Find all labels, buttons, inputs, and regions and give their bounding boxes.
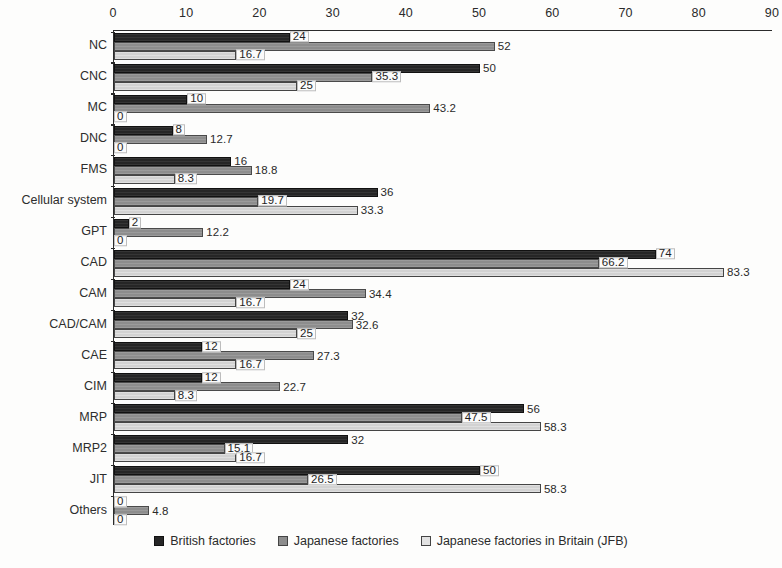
bar-row: 0 [114, 515, 773, 524]
bar-row: 12.7 [114, 135, 773, 144]
bar-value-label: 0 [114, 143, 127, 154]
bar-value-label: 25 [297, 81, 316, 92]
bar[interactable] [114, 391, 175, 400]
category-label: NC [0, 38, 107, 52]
bar-group: 1227.316.7 [114, 340, 772, 371]
bar-group: 3215.116.7 [114, 433, 772, 464]
chart-legend: British factoriesJapanese factoriesJapan… [0, 534, 782, 548]
bar[interactable] [114, 484, 541, 493]
x-axis-tick-label: 20 [252, 6, 266, 20]
bar-value-label: 83.3 [724, 266, 750, 278]
category-label: CAM [0, 286, 107, 300]
bar[interactable] [114, 351, 314, 360]
bar-row: 24 [114, 280, 773, 289]
bar[interactable] [114, 475, 308, 484]
bar-row: 83.3 [114, 268, 773, 277]
category-label: MRP2 [0, 441, 107, 455]
category-label: Others [0, 503, 107, 517]
legend-item[interactable]: Japanese factories in Britain (JFB) [421, 534, 628, 548]
bar-value-label: 16.7 [236, 297, 265, 308]
bar-group: 1043.20 [114, 93, 772, 124]
bar-value-label: 47.5 [462, 412, 491, 423]
bar-row: 0 [114, 113, 773, 122]
category-label: CAD [0, 255, 107, 269]
x-axis-tick-label: 0 [109, 6, 116, 20]
bar[interactable] [114, 197, 258, 206]
bar-value-label: 8.3 [175, 173, 197, 184]
bar-value-label: 35.3 [372, 72, 401, 83]
legend-item[interactable]: Japanese factories [278, 534, 399, 548]
bar[interactable] [114, 219, 129, 228]
bar-row: 24 [114, 33, 773, 42]
bar[interactable] [114, 73, 372, 82]
bar-row: 8.3 [114, 175, 773, 184]
bar[interactable] [114, 175, 175, 184]
bar[interactable] [114, 360, 236, 369]
bar-row: 50 [114, 64, 773, 73]
bar[interactable] [114, 453, 236, 462]
category-label: Cellular system [0, 193, 107, 207]
bar[interactable] [114, 64, 480, 73]
bar[interactable] [114, 135, 207, 144]
bar[interactable] [114, 259, 599, 268]
legend-label: Japanese factories in Britain (JFB) [437, 534, 628, 548]
x-axis-tick-label: 50 [472, 6, 486, 20]
bar-value-label: 33.3 [358, 204, 384, 216]
legend-swatch-icon [421, 536, 431, 546]
bar-row: 0 [114, 144, 773, 153]
bar[interactable] [114, 82, 297, 91]
legend-item[interactable]: British factories [154, 534, 255, 548]
bar-group: 1618.88.3 [114, 155, 772, 186]
bar[interactable] [114, 311, 348, 320]
x-axis-tick-label: 70 [618, 6, 632, 20]
legend-label: British factories [170, 534, 255, 548]
bar[interactable] [114, 444, 225, 453]
bar[interactable] [114, 329, 297, 338]
bar[interactable] [114, 250, 656, 259]
bar-row: 50 [114, 466, 773, 475]
plot-area: 245216.75035.3251043.20812.701618.88.336… [113, 30, 772, 525]
bar[interactable] [114, 95, 187, 104]
bar[interactable] [114, 422, 541, 431]
bar-group: 04.80 [114, 495, 772, 526]
bar[interactable] [114, 466, 480, 475]
bar-row: 56 [114, 404, 773, 413]
bar-row: 58.3 [114, 484, 773, 493]
bar[interactable] [114, 268, 724, 277]
bar-value-label: 8 [173, 125, 186, 136]
bar[interactable] [114, 320, 353, 329]
bar[interactable] [114, 413, 462, 422]
bar[interactable] [114, 373, 202, 382]
category-label: CIM [0, 379, 107, 393]
bar-row: 26.5 [114, 475, 773, 484]
category-label: CNC [0, 69, 107, 83]
bar[interactable] [114, 42, 495, 51]
bar[interactable] [114, 342, 202, 351]
bar[interactable] [114, 298, 236, 307]
bar[interactable] [114, 382, 280, 391]
bar[interactable] [114, 104, 430, 113]
bar-row: 74 [114, 250, 773, 259]
bar-value-label: 25 [297, 328, 316, 339]
x-axis-tick-label: 10 [179, 6, 193, 20]
bar-value-label: 0 [114, 112, 127, 123]
bar-group: 3619.733.3 [114, 186, 772, 217]
bar[interactable] [114, 188, 378, 197]
bar-value-label: 16.7 [236, 452, 265, 463]
bar[interactable] [114, 51, 236, 60]
bar-row: 12 [114, 373, 773, 382]
bar-row: 16.7 [114, 51, 773, 60]
bar[interactable] [114, 280, 290, 289]
bar-value-label: 66.2 [599, 257, 628, 268]
bar-value-label: 24 [290, 32, 309, 43]
bar-value-label: 8.3 [175, 390, 197, 401]
bar[interactable] [114, 206, 358, 215]
bar[interactable] [114, 33, 290, 42]
legend-swatch-icon [278, 536, 288, 546]
bar[interactable] [114, 126, 173, 135]
bar[interactable] [114, 228, 203, 237]
bar-value-label: 26.5 [308, 474, 337, 485]
bar-group: 5647.558.3 [114, 402, 772, 433]
bar[interactable] [114, 157, 231, 166]
bar-row: 66.2 [114, 259, 773, 268]
